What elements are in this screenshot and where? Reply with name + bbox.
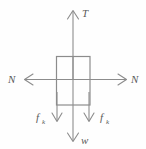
free-body-diagram-canvas: T w N N f k f k [0,0,146,149]
friction-right-force-label: f [100,111,105,123]
friction-right-force-subscript: k [106,118,110,126]
normal-left-force-label: N [7,73,16,85]
weight-force-label: w [81,134,89,146]
tension-force-label: T [82,7,89,19]
free-body-diagram-figure: T w N N f k f k [0,0,146,149]
normal-right-force-label: N [130,73,139,85]
friction-left-force-subscript: k [42,118,46,126]
friction-left-force-label: f [36,111,41,123]
